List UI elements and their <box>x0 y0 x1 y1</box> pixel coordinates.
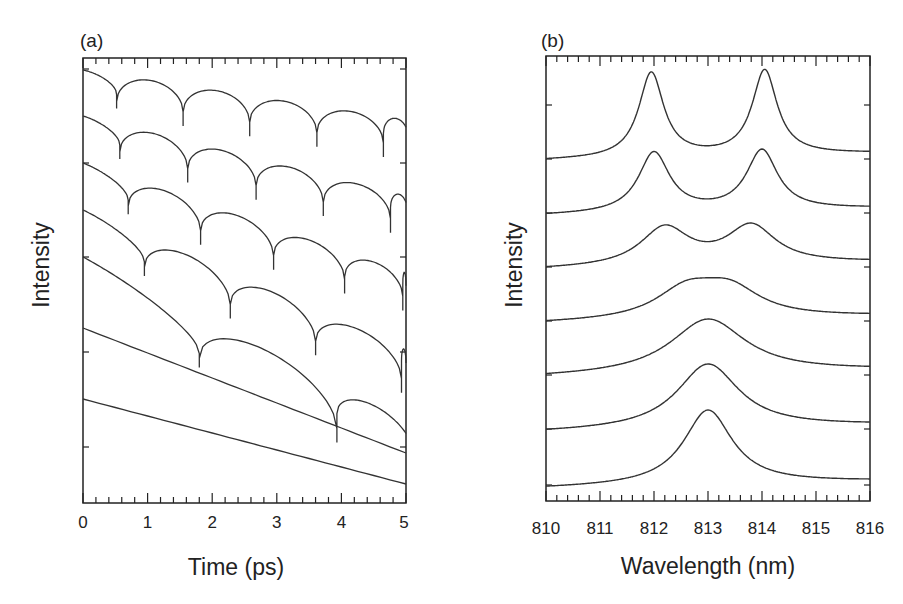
tick-label: 811 <box>586 519 613 538</box>
trace-line <box>83 257 406 443</box>
tick-label: 816 <box>856 519 884 538</box>
panel-a-y-axis-label: Intensity <box>28 222 54 308</box>
panel-b-tick-labels: 810 811 812 813 814 815 816 <box>532 519 884 538</box>
trace-line <box>83 399 406 484</box>
tick-label: 810 <box>532 519 560 538</box>
trace-line <box>83 70 406 157</box>
panel-a-traces <box>83 70 406 484</box>
figure: (a) 0 1 2 3 4 5 Time (ps) Intensity (b) … <box>0 0 903 604</box>
spectrum-line <box>546 364 870 429</box>
panel-a-ticks <box>83 58 406 503</box>
tick-label: 1 <box>143 513 152 532</box>
spectrum-line <box>546 149 870 213</box>
tick-label: 5 <box>399 513 408 532</box>
panel-b-axes <box>546 56 870 501</box>
panel-a-axes <box>83 58 406 503</box>
tick-label: 812 <box>640 519 668 538</box>
panel-b-traces <box>546 69 870 486</box>
tick-label: 2 <box>207 513 216 532</box>
trace-line <box>83 328 406 453</box>
tick-label: 0 <box>78 513 87 532</box>
spectrum-line <box>546 278 870 321</box>
trace-line <box>83 210 406 393</box>
panel-a-frame <box>83 58 406 503</box>
tick-label: 3 <box>272 513 281 532</box>
tick-label: 813 <box>694 519 722 538</box>
spectrum-line <box>546 223 870 267</box>
panel-b-x-axis-label: Wavelength (nm) <box>621 553 795 579</box>
panel-a-x-axis-label: Time (ps) <box>188 554 284 580</box>
panel-b-y-axis-label: Intensity <box>501 222 527 308</box>
spectrum-line <box>546 319 870 374</box>
tick-label: 4 <box>337 513 346 532</box>
panel-a-tick-labels: 0 1 2 3 4 5 <box>78 513 408 532</box>
trace-line <box>83 116 406 233</box>
spectrum-line <box>546 69 870 158</box>
tick-label: 815 <box>802 519 830 538</box>
panel-a-label: (a) <box>80 30 103 51</box>
spectrum-line <box>546 410 870 486</box>
tick-label: 814 <box>748 519 776 538</box>
panel-b-label: (b) <box>541 30 564 51</box>
